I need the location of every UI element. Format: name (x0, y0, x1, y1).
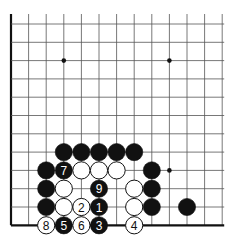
star-point (167, 168, 172, 173)
star-point (167, 58, 172, 63)
move-number-label: 9 (96, 182, 103, 196)
move-number-label: 5 (60, 219, 67, 233)
black-stone (126, 144, 143, 161)
move-number-label: 2 (78, 201, 85, 215)
go-board: 792185634 (0, 0, 239, 251)
white-stone (73, 162, 90, 179)
black-stone (143, 198, 160, 215)
move-number-label: 6 (78, 219, 85, 233)
black-stone (143, 162, 160, 179)
white-stone (55, 198, 72, 215)
black-stone (55, 144, 72, 161)
white-stone (126, 180, 143, 197)
white-stone (126, 198, 143, 215)
move-number-label: 4 (131, 219, 138, 233)
move-number-label: 1 (96, 201, 103, 215)
black-stone (178, 198, 195, 215)
black-stone (90, 144, 107, 161)
white-stone (55, 180, 72, 197)
black-stone (38, 162, 55, 179)
black-stone (38, 198, 55, 215)
move-number-label: 7 (60, 164, 67, 178)
black-stone (73, 144, 90, 161)
move-number-label: 8 (43, 219, 50, 233)
star-point (62, 58, 67, 63)
black-stone (38, 180, 55, 197)
white-stone (108, 162, 125, 179)
black-stone (108, 144, 125, 161)
white-stone (90, 162, 107, 179)
black-stone (143, 180, 160, 197)
move-number-label: 3 (96, 219, 103, 233)
